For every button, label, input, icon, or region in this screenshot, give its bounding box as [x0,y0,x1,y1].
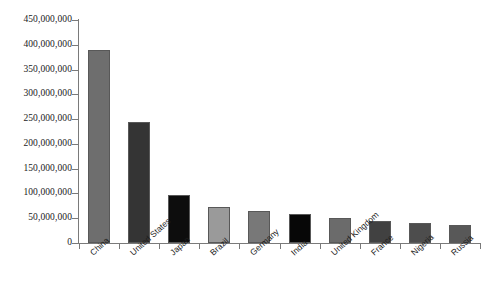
y-axis-tick [72,45,78,46]
bars-container [79,20,480,243]
y-axis-tick [72,94,78,95]
x-axis-tick [199,244,200,249]
y-axis-tick [72,119,78,120]
x-axis-tick [480,244,481,249]
y-axis-tick-label: 250,000,000 [0,114,72,123]
y-axis-tick [72,20,78,21]
y-axis-tick-label: 150,000,000 [0,164,72,173]
y-axis-tick-label: 450,000,000 [0,15,72,24]
x-axis-tick [280,244,281,249]
y-axis-tick-label: 0 [0,238,72,247]
x-axis-tick [119,244,120,249]
x-axis-tick [239,244,240,249]
x-axis-tick [320,244,321,249]
y-axis-tick-label: 350,000,000 [0,65,72,74]
y-axis-tick [72,169,78,170]
bar [208,207,230,243]
y-axis-tick-label: 300,000,000 [0,89,72,98]
y-axis-tick [72,70,78,71]
y-axis-tick-label: 50,000,000 [0,213,72,222]
y-axis-tick [72,144,78,145]
y-axis-tick [72,243,78,244]
bar [128,122,150,243]
y-axis-tick-label: 400,000,000 [0,40,72,49]
x-axis-tick [400,244,401,249]
y-axis-tick-label: 200,000,000 [0,139,72,148]
y-axis-tick-label: 100,000,000 [0,188,72,197]
y-axis-tick [72,218,78,219]
bar [88,50,110,243]
x-axis-tick [360,244,361,249]
bar-chart: 450,000,000400,000,000350,000,000300,000… [0,0,489,307]
x-axis-tick [159,244,160,249]
x-axis-tick [79,244,80,249]
y-axis-tick [72,193,78,194]
x-axis-tick [440,244,441,249]
